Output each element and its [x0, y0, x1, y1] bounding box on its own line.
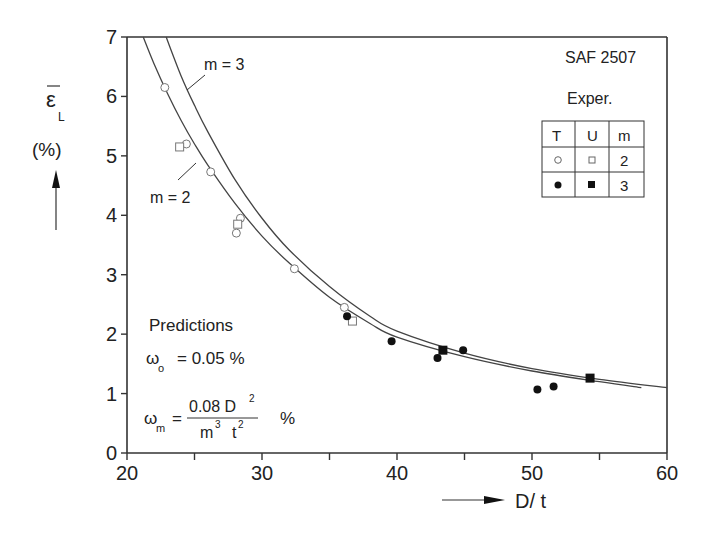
y-tick-label: 5 [106, 145, 117, 167]
m2-label: m = 2 [150, 189, 191, 206]
legend-title: Exper. [567, 90, 612, 107]
y-tick-label: 7 [106, 26, 117, 48]
filled-circle-point [388, 337, 396, 345]
filled-circle-point [550, 382, 558, 390]
legend-open-circle-icon [555, 157, 562, 164]
y-tick-label: 1 [106, 383, 117, 405]
y-axis-subscript: L [58, 110, 65, 124]
legend-open-square-icon [589, 157, 595, 163]
open-square-point [234, 220, 242, 228]
legend-header-t: T [552, 127, 561, 144]
filled-square-point [438, 346, 447, 355]
omega-m-numerator: 0.08 D [189, 398, 236, 415]
x-tick-label: 30 [251, 462, 273, 484]
open-square-point [176, 143, 184, 151]
legend-header-m: m [618, 127, 631, 144]
omega-m-equals: = [172, 409, 182, 428]
open-circle-point [340, 303, 348, 311]
filled-square-point [586, 374, 595, 383]
legend-filled-square-icon [588, 181, 595, 188]
y-tick-label: 2 [106, 323, 117, 345]
y-tick-label: 0 [106, 442, 117, 464]
y-tick-label: 3 [106, 264, 117, 286]
x-tick-label: 20 [116, 462, 138, 484]
omega-m-numerator-exp: 2 [249, 393, 255, 404]
open-circle-point [161, 84, 169, 92]
chart: 2030405060 01234567 m = 3 m = 2 SAF 2507… [0, 0, 712, 533]
x-axis-label: D/ t [515, 490, 547, 512]
y-axis-symbol: ε [46, 87, 56, 112]
legend-m2-value: 2 [620, 152, 628, 169]
y-tick-label: 4 [106, 204, 117, 226]
legend-m3-value: 3 [620, 177, 628, 194]
y-tick-label: 6 [106, 85, 117, 107]
x-axis-arrow-icon [442, 496, 505, 504]
m2-leader-line [178, 163, 196, 180]
omega-o-value: = 0.05 % [177, 349, 245, 368]
omega-m-unit: % [280, 409, 295, 428]
omega-m-den-t-exp: 2 [238, 419, 244, 430]
y-axis-unit: (%) [32, 139, 62, 160]
filled-circle-point [533, 385, 541, 393]
x-tick-label: 50 [521, 462, 543, 484]
legend-header-u: U [587, 127, 598, 144]
omega-m-den-m-exp: 3 [215, 419, 221, 430]
open-circle-point [207, 168, 215, 176]
y-axis-arrow-icon [52, 170, 60, 230]
omega-m-subscript: m [156, 422, 165, 434]
legend-filled-circle-icon [555, 182, 562, 189]
chart-title: SAF 2507 [565, 49, 636, 66]
x-tick-label: 40 [386, 462, 408, 484]
filled-circle-point [459, 346, 467, 354]
open-circle-point [232, 229, 240, 237]
filled-circle-point [434, 354, 442, 362]
omega-m-den-t: t [232, 424, 237, 441]
m3-leader-line [187, 75, 205, 90]
x-axis-ticks: 2030405060 [116, 453, 678, 484]
filled-circle-point [343, 312, 351, 320]
data-points [161, 84, 595, 394]
omega-o-subscript: o [158, 362, 164, 374]
open-circle-point [290, 265, 298, 273]
y-axis-ticks: 01234567 [106, 26, 127, 464]
x-tick-label: 60 [656, 462, 678, 484]
omega-m-den-m: m [200, 424, 213, 441]
predictions-title: Predictions [149, 316, 233, 335]
m3-label: m = 3 [204, 56, 245, 73]
